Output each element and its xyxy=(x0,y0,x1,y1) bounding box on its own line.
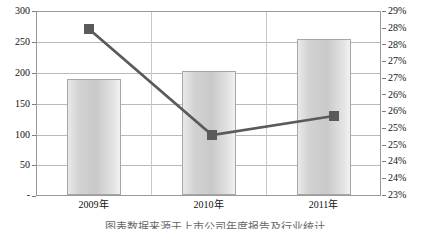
right-axis-tick-label: 23% xyxy=(388,190,406,200)
right-axis-tickmark xyxy=(382,28,386,29)
right-axis-tick-label: 29% xyxy=(388,6,406,16)
line-marker-2009[interactable] xyxy=(84,24,94,34)
line-series-layer xyxy=(37,12,380,195)
right-axis-tickmark xyxy=(382,111,386,112)
left-axis-tickmark xyxy=(32,196,36,197)
plot-area xyxy=(36,11,381,196)
right-percent-axis: 29% 28% 28% 27% 27% 26% 26% 25% 25% 24% … xyxy=(388,0,430,229)
right-axis-tickmark xyxy=(382,145,386,146)
left-axis-tick-label: 150 xyxy=(0,99,30,109)
right-axis-tickmark xyxy=(382,11,386,12)
right-axis-tick-label: 28% xyxy=(388,40,406,50)
category-axis: 2009年 2010年 2011年 xyxy=(36,199,381,215)
category-label-2011: 2011年 xyxy=(266,199,381,211)
left-axis-tick-label: 300 xyxy=(0,6,30,16)
line-marker-2010[interactable] xyxy=(207,130,217,140)
left-axis-tick-label: 200 xyxy=(0,68,30,78)
right-axis-tick-label: 25% xyxy=(388,123,406,133)
figure-caption: 图表数据来源于上市公司年度报告及行业统计 xyxy=(0,221,430,229)
right-axis-tick-label: 24% xyxy=(388,173,406,183)
left-axis-tick-label: 100 xyxy=(0,130,30,140)
right-axis-tickmark xyxy=(382,128,386,129)
right-axis-tick-label: 24% xyxy=(388,156,406,166)
right-axis-tick-label: 27% xyxy=(388,56,406,66)
figure-caption-text: 图表数据来源于上市公司年度报告及行业统计 xyxy=(0,221,430,229)
right-axis-tickmark xyxy=(382,44,386,45)
right-axis-tick-label: 25% xyxy=(388,140,406,150)
category-label-2010: 2010年 xyxy=(151,199,266,211)
left-axis-tick-label: 250 xyxy=(0,37,30,47)
category-label-2009: 2009年 xyxy=(36,199,151,211)
right-axis-tickmark xyxy=(382,61,386,62)
line-marker-2011[interactable] xyxy=(329,111,339,121)
left-axis-tick-label: 50 xyxy=(0,160,30,170)
right-axis-tick-label: 28% xyxy=(388,23,406,33)
right-axis-tickmark xyxy=(382,78,386,79)
right-axis-tick-label: 26% xyxy=(388,106,406,116)
line-series-path xyxy=(89,29,334,135)
line-series-svg xyxy=(37,12,380,195)
right-axis-tick-label: 26% xyxy=(388,90,406,100)
chart-container: 300 250 200 150 100 50 - xyxy=(0,0,430,229)
right-axis-tickmark xyxy=(382,94,386,95)
right-axis-tickmark xyxy=(382,178,386,179)
left-value-axis: 300 250 200 150 100 50 - xyxy=(0,0,30,229)
right-axis-tickmark xyxy=(382,161,386,162)
right-axis-tick-label: 27% xyxy=(388,73,406,83)
right-axis-tickmark xyxy=(382,195,386,196)
left-axis-tick-label: - xyxy=(0,190,30,200)
